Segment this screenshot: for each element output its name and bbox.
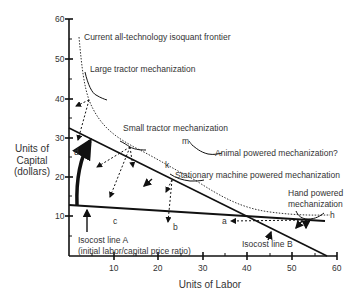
isocost-line-a: [69, 205, 325, 221]
y-tick-10: 10: [55, 212, 64, 221]
y-axis: [65, 19, 73, 256]
point-a: a: [222, 217, 227, 226]
hand-label-line1: Hand powered: [288, 189, 343, 198]
stationary-label: Stationary machine powered mechanization: [175, 171, 340, 180]
large-tractor-isoquant: [85, 72, 107, 100]
point-k: k: [165, 161, 169, 170]
point-c: c: [113, 217, 117, 226]
x-tick-10: 10: [109, 264, 118, 273]
y-tick-50: 50: [55, 55, 64, 64]
y-tick-20: 20: [55, 173, 64, 182]
x-tick-20: 20: [153, 264, 162, 273]
point-d: d: [74, 148, 79, 157]
y-tick-40: 40: [55, 95, 64, 104]
x-tick-50: 50: [287, 264, 296, 273]
point-b: b: [173, 223, 178, 232]
isocost-a-label-line2: (initial labor/capital price ratio): [78, 247, 191, 256]
small-tractor-label: Small tractor mechanization: [123, 124, 228, 133]
x-tick-40: 40: [242, 264, 251, 273]
isocost-a-label-line1: Isocost line A: [78, 236, 128, 245]
point-h: h: [330, 211, 335, 220]
y-tick-30: 30: [55, 134, 64, 143]
y-tick-60: 60: [55, 15, 64, 24]
y-axis-title: Units of Capital (dollars): [8, 143, 56, 178]
small-tractor-isoquant: [120, 141, 146, 150]
point-m: m: [182, 137, 189, 146]
x-axis-title: Units of Labor: [170, 279, 250, 291]
hand-label-line2: mechanization: [288, 200, 343, 209]
isocost-b-label: Isocost line B: [242, 240, 293, 249]
frontier-label: Current all-technology isoquant frontier: [84, 33, 230, 42]
large-tractor-label: Large tractor mechanization: [90, 65, 195, 74]
x-tick-30: 30: [198, 264, 207, 273]
x-tick-60: 60: [332, 264, 341, 273]
animal-label: Animal powered mechanization?: [215, 149, 338, 158]
